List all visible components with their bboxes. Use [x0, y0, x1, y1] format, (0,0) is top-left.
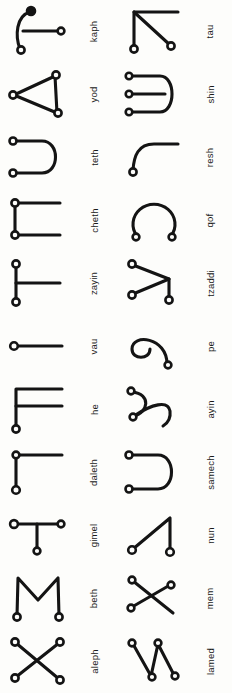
glyph-entry-yod[interactable]: yod	[0, 63, 116, 126]
glyph-label-tau: tau	[190, 0, 230, 63]
glyph-label-samech: samech	[190, 441, 230, 504]
glyph-lamed	[118, 630, 190, 693]
glyph-he	[2, 378, 74, 441]
glyph-entry-lamed[interactable]: lamed	[116, 630, 232, 693]
glyph-label-shin: shin	[190, 63, 230, 126]
glyph-gimel	[2, 504, 74, 567]
glyph-label-teth: teth	[74, 126, 114, 189]
glyph-label-he: he	[74, 378, 114, 441]
glyph-daleth	[2, 441, 74, 504]
glyph-label-daleth: daleth	[74, 441, 114, 504]
glyph-label-zayin: zayin	[74, 252, 114, 315]
glyph-vau	[2, 315, 74, 378]
glyph-entry-shin[interactable]: shin	[116, 63, 232, 126]
glyph-ayin	[118, 378, 190, 441]
glyph-label-qof: qof	[190, 189, 230, 252]
glyph-entry-teth[interactable]: teth	[0, 126, 116, 189]
glyph-kaph	[2, 0, 74, 63]
glyph-yod	[2, 63, 74, 126]
glyph-entry-tzaddi[interactable]: tzaddi	[116, 252, 232, 315]
glyph-qof	[118, 189, 190, 252]
glyph-aleph	[2, 630, 74, 693]
glyph-entry-cheth[interactable]: cheth	[0, 189, 116, 252]
glyph-label-cheth: cheth	[74, 189, 114, 252]
glyph-label-aleph: aleph	[74, 630, 114, 693]
glyph-mem	[118, 567, 190, 630]
glyph-entry-pe[interactable]: pe	[116, 315, 232, 378]
glyph-chart-sheet: kaph yod	[0, 0, 232, 693]
glyph-entry-vau[interactable]: vau	[0, 315, 116, 378]
glyph-label-pe: pe	[190, 315, 230, 378]
glyph-teth	[2, 126, 74, 189]
glyph-entry-gimel[interactable]: gimel	[0, 504, 116, 567]
glyph-label-kaph: kaph	[74, 0, 114, 63]
glyph-samech	[118, 441, 190, 504]
glyph-label-beth: beth	[74, 567, 114, 630]
glyph-entry-he[interactable]: he	[0, 378, 116, 441]
glyph-entry-aleph[interactable]: aleph	[0, 630, 116, 693]
glyph-tzaddi	[118, 252, 190, 315]
glyph-entry-ayin[interactable]: ayin	[116, 378, 232, 441]
glyph-label-resh: resh	[190, 126, 230, 189]
glyph-label-mem: mem	[190, 567, 230, 630]
glyph-entry-resh[interactable]: resh	[116, 126, 232, 189]
glyph-zayin	[2, 252, 74, 315]
glyph-cheth	[2, 189, 74, 252]
glyph-entry-mem[interactable]: mem	[116, 567, 232, 630]
glyph-entry-samech[interactable]: samech	[116, 441, 232, 504]
glyph-pe	[118, 315, 190, 378]
glyph-nun	[118, 504, 190, 567]
glyph-beth	[2, 567, 74, 630]
glyph-label-lamed: lamed	[190, 630, 230, 693]
glyph-shin	[118, 63, 190, 126]
glyph-entry-zayin[interactable]: zayin	[0, 252, 116, 315]
left-column: kaph yod	[0, 0, 116, 693]
glyph-label-tzaddi: tzaddi	[190, 252, 230, 315]
glyph-tau	[118, 0, 190, 63]
glyph-entry-nun[interactable]: nun	[116, 504, 232, 567]
glyph-entry-qof[interactable]: qof	[116, 189, 232, 252]
glyph-entry-tau[interactable]: tau	[116, 0, 232, 63]
glyph-label-nun: nun	[190, 504, 230, 567]
glyph-label-vau: vau	[74, 315, 114, 378]
glyph-label-yod: yod	[74, 63, 114, 126]
right-column: tau shin	[116, 0, 232, 693]
glyph-entry-daleth[interactable]: daleth	[0, 441, 116, 504]
glyph-label-gimel: gimel	[74, 504, 114, 567]
glyph-label-ayin: ayin	[190, 378, 230, 441]
glyph-entry-kaph[interactable]: kaph	[0, 0, 116, 63]
glyph-entry-beth[interactable]: beth	[0, 567, 116, 630]
glyph-resh	[118, 126, 190, 189]
